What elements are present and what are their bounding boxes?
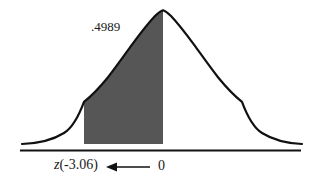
z-score-label: z(-3.06): [54, 158, 98, 172]
mean-zero-label: 0: [158, 159, 165, 173]
z-value-text: (-3.06): [59, 157, 98, 172]
shaded-area-value-label: .4989: [91, 20, 120, 33]
normal-distribution-figure: .4989 z(-3.06) 0: [0, 0, 317, 187]
left-arrow-icon: [106, 163, 150, 172]
